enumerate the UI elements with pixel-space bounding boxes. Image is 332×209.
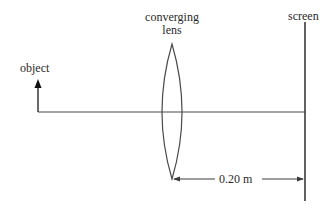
object-label: object: [20, 62, 49, 75]
distance-label: 0.20 m: [219, 173, 252, 186]
object-arrow-icon: [35, 79, 42, 112]
screen-label: screen: [288, 10, 319, 23]
lens-label-line2: lens: [142, 24, 202, 37]
